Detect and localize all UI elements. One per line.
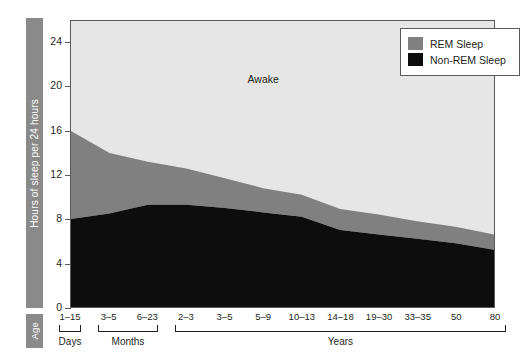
x-tick-label: 6–23 bbox=[137, 311, 158, 322]
legend-item-non-rem: Non-REM Sleep bbox=[408, 53, 512, 66]
x-tick-label: 3–5 bbox=[101, 311, 117, 322]
x-tick-label: 1–15 bbox=[59, 311, 80, 322]
chart-legend: REM Sleep Non-REM Sleep bbox=[400, 28, 520, 76]
legend-label-rem: REM Sleep bbox=[430, 38, 483, 50]
legend-swatch-rem-icon bbox=[408, 37, 423, 50]
legend-item-rem: REM Sleep bbox=[408, 37, 512, 50]
y-tick-label: 8 bbox=[36, 212, 62, 224]
y-tick-mark bbox=[65, 308, 71, 309]
group-label: Years bbox=[328, 336, 353, 347]
legend-label-non-rem: Non-REM Sleep bbox=[430, 54, 506, 66]
x-tick-label: 14–18 bbox=[327, 311, 353, 322]
x-tick-label: 19–30 bbox=[366, 311, 392, 322]
awake-annotation-label: Awake bbox=[248, 73, 279, 85]
y-tick-label: 16 bbox=[36, 124, 62, 136]
y-tick-label: 20 bbox=[36, 79, 62, 91]
x-tick-label: 2–3 bbox=[178, 311, 194, 322]
group-bracket bbox=[98, 325, 159, 332]
legend-swatch-non-rem-icon bbox=[408, 53, 423, 66]
x-tick-label: 50 bbox=[451, 311, 462, 322]
x-axis-group-brackets bbox=[0, 325, 528, 335]
y-axis-title: Hours of sleep per 24 hours bbox=[29, 99, 40, 228]
x-tick-label: 5–9 bbox=[255, 311, 271, 322]
y-tick-label: 12 bbox=[36, 168, 62, 180]
group-bracket bbox=[175, 325, 506, 332]
x-tick-label: 3–5 bbox=[217, 311, 233, 322]
group-label: Months bbox=[112, 336, 145, 347]
x-tick-label: 10–13 bbox=[289, 311, 315, 322]
group-label: Days bbox=[59, 336, 82, 347]
x-axis-tick-labels: 1–153–56–232–33–55–910–1314–1819–3033–35… bbox=[0, 311, 528, 325]
x-tick-label: 80 bbox=[490, 311, 501, 322]
x-tick-label: 33–35 bbox=[405, 311, 431, 322]
x-axis-group-labels: DaysMonthsYears bbox=[0, 336, 528, 350]
y-tick-label: 4 bbox=[36, 257, 62, 269]
chart-container: Hours of sleep per 24 hours Age 04812162… bbox=[0, 0, 528, 362]
group-bracket bbox=[59, 325, 81, 332]
y-tick-label: 24 bbox=[36, 35, 62, 47]
